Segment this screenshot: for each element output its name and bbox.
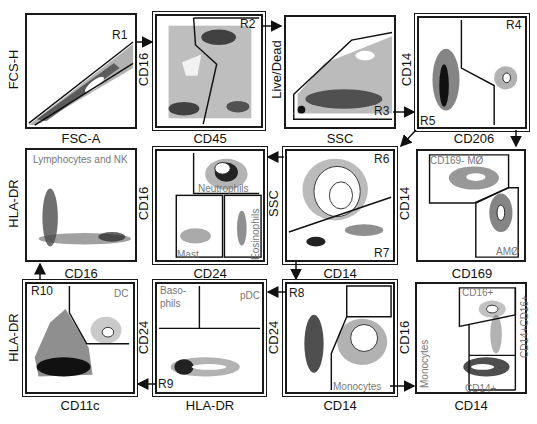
x-axis-label: FSC-A xyxy=(25,131,137,146)
x-axis-label: CD11c xyxy=(24,398,136,413)
population-alveolar-macrophages: AMØ xyxy=(496,246,519,257)
scatter-plot xyxy=(27,150,135,260)
gate-r6: R6 xyxy=(374,152,389,166)
contour-plot xyxy=(418,151,524,260)
y-axis-label: HLA-DR xyxy=(6,298,21,378)
gate-r10: R10 xyxy=(31,284,53,298)
population-monocytes: Monocytes xyxy=(333,381,381,392)
contour-plot xyxy=(287,284,393,392)
y-axis-label: Live/Dead xyxy=(269,30,284,110)
panel-cd45 xyxy=(155,14,263,128)
y-axis-label: CD16 xyxy=(136,30,151,110)
panel-cd206 xyxy=(417,16,527,129)
contour-plot xyxy=(417,284,525,392)
x-axis-label: CD14 xyxy=(415,398,527,413)
gate-r8: R8 xyxy=(289,286,304,300)
population-neutrophils: Neutrophils xyxy=(198,183,249,194)
x-axis-label: CD24 xyxy=(154,266,266,281)
population-cd14-cd16-pos: CD14+CD16+ xyxy=(519,295,530,358)
population-cd169-neg-macrophages: CD169- MØ xyxy=(430,155,483,166)
panel-granulocytes xyxy=(155,149,265,262)
contour-plot xyxy=(27,284,133,392)
y-axis-label: CD24 xyxy=(266,298,281,378)
x-axis-label: CD14 xyxy=(284,398,396,413)
y-axis-label: FCS-H xyxy=(6,30,21,110)
y-axis-label: CD16 xyxy=(136,164,151,244)
contour-plot xyxy=(419,18,525,127)
gate-r9: R9 xyxy=(158,377,173,391)
population-pdc: pDC xyxy=(240,290,260,301)
contour-plot xyxy=(157,151,263,260)
population-basophils: Baso- xyxy=(160,285,186,296)
x-axis-label: CD169 xyxy=(416,266,528,281)
y-axis-label: CD14 xyxy=(397,164,412,244)
population-cd14-pos: CD14+ xyxy=(465,383,496,394)
gate-r4: R4 xyxy=(506,18,521,32)
gate-r2: R2 xyxy=(240,17,255,31)
population-eosinophils: Eosinophils xyxy=(250,209,261,260)
gate-r3: R3 xyxy=(374,104,389,118)
gate-r5: R5 xyxy=(420,114,435,128)
population-cd16-pos: CD16+ xyxy=(462,287,493,298)
y-axis-label: CD24 xyxy=(136,298,151,378)
panel-lymphocytes-nk xyxy=(25,148,137,262)
population-dc: DC xyxy=(114,288,128,299)
y-axis-label: SSC xyxy=(266,164,281,244)
population-lymphocytes-nk: Lymphocytes and NK xyxy=(33,154,128,165)
panel-monocyte-subsets xyxy=(415,282,527,394)
x-axis-label: CD45 xyxy=(154,131,266,146)
gate-r7: R7 xyxy=(374,246,389,260)
y-axis-label: HLA-DR xyxy=(6,164,21,244)
y-axis-label: CD14 xyxy=(399,30,414,110)
population-mast: Mast xyxy=(177,249,199,260)
arrow-r5-to-p7 xyxy=(401,130,416,146)
contour-plot xyxy=(157,16,261,126)
x-axis-label: SSC xyxy=(284,131,396,146)
population-basophils-cont: phils xyxy=(160,298,181,309)
x-axis-label: HLA-DR xyxy=(154,398,266,413)
y-axis-label: CD16 xyxy=(397,298,412,378)
x-axis-label: CD16 xyxy=(25,266,137,281)
gate-r1: R1 xyxy=(112,28,127,42)
contour-plot xyxy=(287,151,393,260)
x-axis-label: CD14 xyxy=(284,266,396,281)
x-axis-label: CD206 xyxy=(418,131,530,146)
population-monocytes-label: Monocytes xyxy=(419,340,430,388)
